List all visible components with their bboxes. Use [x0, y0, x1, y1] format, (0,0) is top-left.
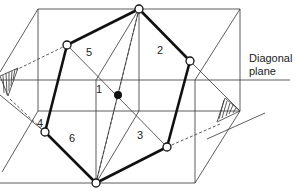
center-point: [114, 91, 122, 99]
face-label-4: 4: [37, 117, 43, 129]
caption-line-2: plane: [249, 65, 292, 78]
hatched-triangle-left: [0, 68, 18, 96]
face-label-2: 2: [157, 44, 163, 56]
face-label-1: 1: [96, 83, 102, 95]
hexagon-diagonal-plane-diagram: 1 2 3 4 5 6: [0, 0, 300, 192]
diagonal-plane-caption: Diagonal plane: [249, 52, 292, 78]
face-label-3: 3: [137, 129, 143, 141]
face-label-6: 6: [69, 132, 75, 144]
hatched-triangle-right: [217, 98, 240, 122]
face-label-5: 5: [86, 46, 92, 58]
caption-line-1: Diagonal: [249, 52, 292, 65]
